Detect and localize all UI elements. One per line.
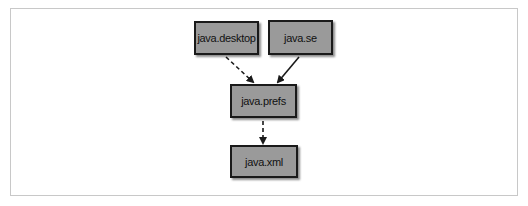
node-label: java.prefs [241,95,286,107]
node-java-desktop: java.desktop [194,21,259,55]
node-label: java.se [284,32,317,44]
node-java-prefs: java.prefs [230,84,297,118]
node-java-se: java.se [268,20,333,55]
node-java-xml: java.xml [230,145,298,178]
edge-se-to-prefs [278,57,299,82]
edge-desktop-to-prefs [226,57,253,82]
node-label: java.desktop [197,32,255,44]
node-label: java.xml [245,156,283,168]
